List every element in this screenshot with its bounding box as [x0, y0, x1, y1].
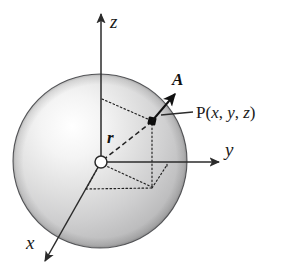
- figure-container: z y x A r P(x, y, z): [0, 0, 290, 280]
- point-p-label-y: y: [225, 103, 235, 122]
- point-p-label: P(x, y, z): [196, 103, 256, 122]
- sphere-coordinate-diagram: z y x A r P(x, y, z): [0, 0, 290, 280]
- point-p-label-sep2: ,: [235, 103, 244, 122]
- origin-marker: [95, 156, 107, 168]
- vector-label-a: A: [171, 70, 183, 89]
- axis-label-x: x: [25, 232, 35, 253]
- axis-label-y: y: [223, 139, 234, 160]
- point-p-label-prefix: P(: [196, 103, 211, 122]
- point-p-label-sep1: ,: [219, 103, 228, 122]
- axis-label-z: z: [109, 11, 118, 32]
- point-p-label-suffix: ): [250, 103, 256, 122]
- vector-label-r: r: [107, 128, 114, 147]
